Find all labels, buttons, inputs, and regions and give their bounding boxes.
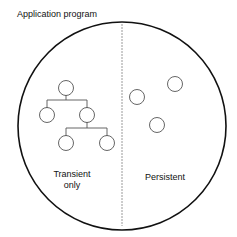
tree-node-left bbox=[40, 108, 55, 123]
tree-node-right bbox=[80, 108, 95, 123]
tree-node-root bbox=[59, 81, 74, 96]
tree-node-right-left bbox=[59, 136, 74, 151]
persistent-object-1 bbox=[130, 90, 145, 105]
persistent-object-3 bbox=[150, 118, 165, 133]
transient-tree bbox=[40, 81, 115, 151]
persistent-objects bbox=[130, 77, 183, 133]
transient-label: Transient only bbox=[50, 169, 94, 191]
transient-label-line1: Transient bbox=[50, 169, 94, 180]
persistent-object-2 bbox=[168, 77, 183, 92]
diagram-canvas bbox=[0, 0, 237, 237]
tree-node-right-right bbox=[100, 136, 115, 151]
persistent-label: Persistent bbox=[140, 172, 190, 183]
transient-label-line2: only bbox=[50, 180, 94, 191]
